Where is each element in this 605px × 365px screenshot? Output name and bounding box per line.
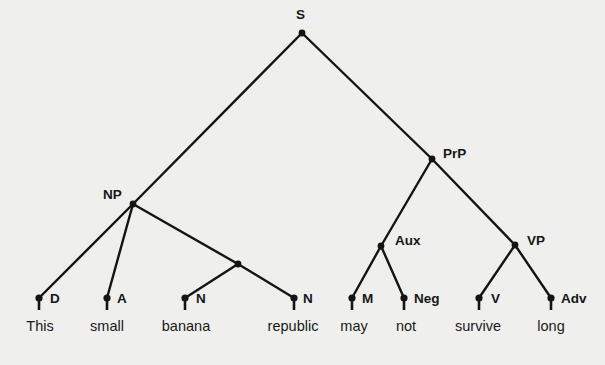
node-dot xyxy=(35,294,42,301)
node-dot xyxy=(235,261,242,268)
word-republic: republic xyxy=(268,319,319,334)
node-dot xyxy=(378,243,385,250)
syntax-tree-diagram: S NP PrP Aux VP D A N N M Neg V Adv This… xyxy=(0,0,605,365)
node-label-vp: VP xyxy=(527,234,545,248)
node-label-v: V xyxy=(491,292,500,306)
node-label-d: D xyxy=(50,292,60,306)
node-dot xyxy=(475,294,482,301)
tree-edge xyxy=(381,246,404,298)
tree-edge xyxy=(133,204,238,264)
word-may: may xyxy=(340,319,367,334)
node-dot xyxy=(103,294,110,301)
node-label-a: A xyxy=(117,292,127,306)
tree-edge xyxy=(238,264,294,298)
word-banana: banana xyxy=(162,319,210,334)
node-dot xyxy=(429,156,436,163)
node-dot xyxy=(348,294,355,301)
node-dot xyxy=(400,294,407,301)
word-long: long xyxy=(537,319,564,334)
tree-edge xyxy=(133,33,302,204)
tree-edge xyxy=(185,264,238,298)
node-dot xyxy=(181,294,188,301)
node-label-neg: Neg xyxy=(414,292,440,306)
node-dot xyxy=(547,294,554,301)
node-label-aux: Aux xyxy=(395,234,421,248)
word-small: small xyxy=(90,319,124,334)
node-dot xyxy=(290,294,297,301)
node-label-n2: N xyxy=(303,292,313,306)
word-survive: survive xyxy=(455,319,501,334)
node-label-adv: Adv xyxy=(561,292,587,306)
tree-edge xyxy=(302,33,432,159)
node-label-prp: PrP xyxy=(443,147,466,161)
word-this: This xyxy=(26,319,53,334)
node-dot xyxy=(512,242,519,249)
tree-edge xyxy=(515,245,551,298)
tree-edges xyxy=(0,0,605,365)
node-label-s: S xyxy=(296,8,305,22)
word-not: not xyxy=(396,319,416,334)
node-label-np: NP xyxy=(103,188,122,202)
node-label-n1: N xyxy=(196,292,206,306)
node-label-m: M xyxy=(362,292,373,306)
node-dot xyxy=(299,30,306,37)
node-dot xyxy=(130,201,137,208)
tree-edge xyxy=(432,159,515,245)
